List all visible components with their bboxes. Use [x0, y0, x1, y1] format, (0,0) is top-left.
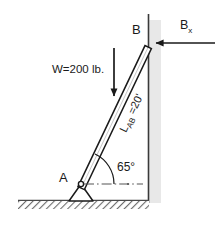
label-point-a: A: [59, 170, 68, 185]
figure-canvas: A B W=200 lb. 65° LAB =20' Bx: [0, 0, 221, 226]
label-reaction-force: Bx: [180, 18, 192, 35]
label-weight: W=200 lb.: [52, 63, 104, 75]
label-angle: 65°: [117, 160, 135, 174]
pin-joint-a: [78, 181, 83, 186]
label-reaction-sub: x: [188, 26, 192, 35]
free-body-diagram: A B W=200 lb. 65° LAB =20' Bx: [0, 0, 221, 226]
reference-dot: [127, 183, 129, 185]
label-point-b: B: [132, 22, 141, 37]
label-length-sub: AB: [125, 116, 138, 129]
wall-shading: [149, 20, 161, 203]
label-reaction-main: B: [180, 18, 188, 32]
